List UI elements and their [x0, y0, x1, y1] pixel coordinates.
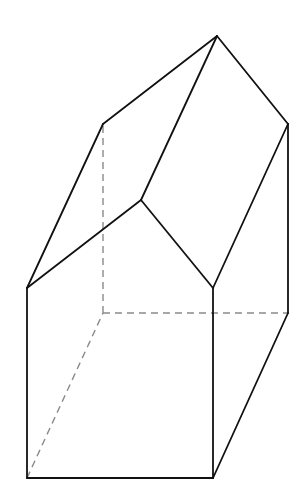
- hidden-edges: [27, 124, 288, 478]
- prism-diagram: [0, 0, 305, 503]
- edge-front-apex-to-front-top-left: [27, 200, 141, 288]
- edge-back-apex-to-back-top-left: [103, 36, 217, 124]
- visible-edges: [27, 36, 288, 478]
- edge-front-bottom-right-to-back-bottom-right: [213, 313, 288, 478]
- edge-back-top-right-to-back-apex: [217, 36, 288, 124]
- edge-front-apex-to-back-apex: [141, 36, 217, 200]
- edge-front-top-left-to-back-top-left: [27, 124, 103, 288]
- edge-front-top-right-to-back-top-right: [213, 124, 288, 288]
- hidden-edge-front-bottom-left-to-back-bottom-left: [27, 313, 103, 478]
- edge-front-top-right-to-front-apex: [141, 200, 213, 288]
